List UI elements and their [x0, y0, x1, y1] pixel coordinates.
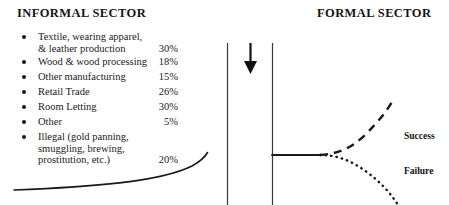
list-item: Textile, wearing apparel, & leather prod…: [0, 31, 200, 54]
list-item-label-line2: smuggling, brewing,: [38, 143, 158, 155]
success-curve: [320, 100, 393, 155]
success-label: Success: [404, 131, 435, 141]
bullet-icon: [22, 120, 26, 124]
down-arrow-icon: [244, 43, 257, 74]
bullet-icon: [22, 60, 26, 64]
bullet-icon: [22, 35, 26, 39]
list-item: Other 5%: [0, 116, 200, 129]
bullet-icon: [22, 90, 26, 94]
list-item-label-line1: Illegal (gold panning,: [38, 131, 129, 142]
bullet-icon: [22, 105, 26, 109]
list-item: Room Letting 30%: [0, 101, 200, 114]
list-item: Illegal (gold panning, smuggling, brewin…: [0, 131, 200, 166]
failure-label: Failure: [404, 166, 433, 176]
informal-sector-heading: INFORMAL SECTOR: [17, 6, 146, 21]
list-item-value: 30%: [138, 43, 178, 55]
list-item-value: 18%: [138, 56, 178, 68]
formal-sector-heading: FORMAL SECTOR: [317, 6, 431, 21]
bullet-icon: [22, 75, 26, 79]
figure-canvas: INFORMAL SECTOR FORMAL SECTOR Textile, w…: [0, 0, 449, 205]
informal-sector-list: Textile, wearing apparel, & leather prod…: [0, 31, 200, 168]
list-item: Retail Trade 26%: [0, 86, 200, 99]
list-item-label-line1: Textile, wearing apparel,: [38, 31, 142, 42]
failure-curve: [320, 155, 398, 205]
list-item-value: 30%: [138, 101, 178, 113]
list-item-value: 20%: [138, 154, 178, 166]
list-item-value: 26%: [138, 86, 178, 98]
bullet-icon: [22, 135, 26, 139]
list-item-value: 15%: [138, 71, 178, 83]
list-item: Wood & wood processing 18%: [0, 56, 200, 69]
list-item-value: 5%: [138, 116, 178, 128]
list-item: Other manufacturing 15%: [0, 71, 200, 84]
